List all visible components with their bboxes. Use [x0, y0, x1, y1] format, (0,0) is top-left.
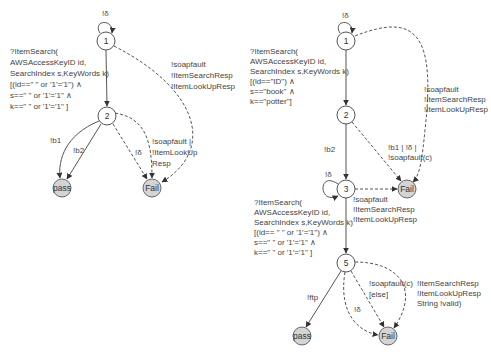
right-node-1: 1: [337, 32, 355, 50]
svg-text:5: 5: [344, 258, 349, 268]
right-s5-to-fail-fault-label: !soapfault(c) [else]: [369, 279, 415, 299]
svg-text:pass: pass: [293, 331, 311, 341]
left-node-2: 2: [98, 107, 116, 125]
left-s1-to-fail-label: !soapfault !ItemSearchResp !ItemLookUpRe…: [171, 60, 236, 91]
right-s3-to-fail-label: !soapfault !ItemSearchResp !ItemLookUpRe…: [353, 195, 418, 224]
right-node-fail-top: Fail: [398, 180, 416, 198]
svg-text:1: 1: [104, 36, 109, 46]
right-node-5: 5: [337, 254, 355, 272]
svg-text:pass: pass: [53, 183, 71, 193]
left-s1-to-s2-label: ?ItemSearch( AWSAccessKeyID id, SearchIn…: [10, 47, 111, 111]
left-s1-loop-label: !δ: [102, 9, 109, 18]
right-node-2: 2: [337, 106, 355, 124]
right-s5-to-fail-resp-label: !ItemSearchResp !ItemLookUpResp String !…: [417, 279, 483, 308]
left-s2-to-fail-delta-edge: [113, 124, 147, 179]
svg-text:1: 1: [344, 36, 349, 46]
right-s2-to-fail-label: !b1 | !δ | !soapfault(c): [388, 143, 432, 162]
right-s1-loop-edge: [338, 22, 352, 33]
right-s3-loop-edge: [323, 181, 338, 198]
svg-text:Fail: Fail: [145, 183, 159, 193]
right-s1-to-fail-label: !soapfault !ItemSearchResp !ItemLookUpRe…: [424, 85, 489, 114]
left-s2-to-pass-b2-label: !b2: [73, 146, 85, 155]
left-s2-to-fail-delta-label: !δ: [135, 148, 142, 157]
right-s3-to-s5-label: ?ItemSearch( AWSAccessKeyID id, SearchIn…: [254, 198, 355, 257]
svg-text:2: 2: [105, 111, 110, 121]
right-s5-to-pass-label: !ftp: [307, 293, 319, 302]
right-s1-loop-label: !δ: [342, 11, 349, 20]
left-node-fail: Fail: [143, 179, 161, 197]
left-node-1: 1: [97, 32, 115, 50]
svg-text:Fail: Fail: [381, 331, 395, 341]
left-node-pass: pass: [53, 179, 71, 197]
right-diagram: !δ ?ItemSearch( AWSAccessKeyID id, Searc…: [250, 11, 489, 345]
right-s3-loop-label: !δ: [325, 170, 332, 179]
svg-text:2: 2: [344, 110, 349, 120]
left-s1-to-s2-edge: [106, 50, 107, 106]
left-s2-to-fail-fault-edge: [115, 113, 152, 178]
right-node-pass: pass: [293, 327, 311, 345]
left-s1-loop-edge: [98, 22, 112, 33]
svg-text:Fail: Fail: [400, 184, 414, 194]
left-s2-to-fail-fault-label: !soapfault | !ItemLookUp Resp: [152, 137, 200, 168]
right-s1-to-s2-label: ?ItemSearch( AWSAccessKeyID id, SearchIn…: [250, 47, 351, 106]
left-s2-to-pass-b1-label: !b1: [50, 136, 62, 145]
right-s2-to-s3-label: !b2: [324, 145, 336, 154]
right-node-3: 3: [337, 180, 355, 198]
left-diagram: !δ ?ItemSearch( AWSAccessKeyID id, Searc…: [10, 9, 236, 197]
diagram-canvas: !δ ?ItemSearch( AWSAccessKeyID id, Searc…: [0, 0, 491, 356]
right-s5-to-fail-delta-label: !δ: [354, 305, 361, 314]
svg-text:3: 3: [344, 184, 349, 194]
right-node-fail-bottom: Fail: [379, 327, 397, 345]
